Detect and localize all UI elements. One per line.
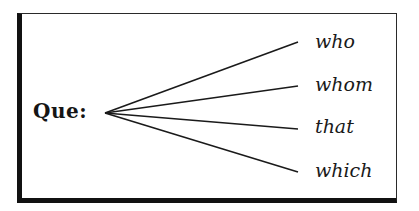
branch-label-which: which	[315, 159, 372, 181]
branch-line-who	[105, 42, 298, 113]
branch-line-whom	[105, 86, 298, 113]
branch-line-which	[105, 113, 298, 172]
branch-label-that: that	[315, 115, 354, 137]
branch-label-whom: whom	[315, 73, 373, 95]
branch-label-who: who	[315, 30, 355, 52]
branch-line-that	[105, 113, 298, 129]
